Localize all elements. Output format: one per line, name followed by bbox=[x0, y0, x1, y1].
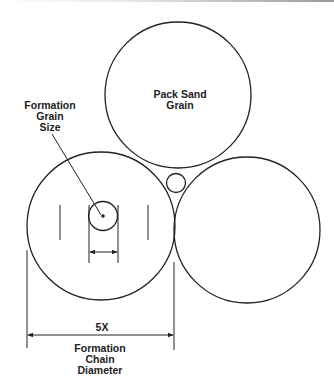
label-line: Grain bbox=[138, 100, 222, 111]
multiplier-label: 5X bbox=[80, 322, 124, 333]
leader-line bbox=[52, 134, 101, 215]
formation-chain-diameter-label: Formation Chain Diameter bbox=[60, 343, 140, 376]
label-line: Diameter bbox=[60, 365, 140, 376]
pack-sand-grain-label: Pack Sand Grain bbox=[138, 89, 222, 111]
formation-grain-size-label: Formation Grain Size bbox=[10, 100, 90, 133]
grain-center-dot bbox=[101, 214, 105, 218]
right-pack-grain-circle bbox=[174, 157, 320, 303]
sand-pack-diagram bbox=[0, 0, 334, 384]
left-pack-grain-circle bbox=[27, 152, 175, 300]
pore-throat-circle bbox=[167, 174, 186, 193]
label-line: Size bbox=[10, 122, 90, 133]
